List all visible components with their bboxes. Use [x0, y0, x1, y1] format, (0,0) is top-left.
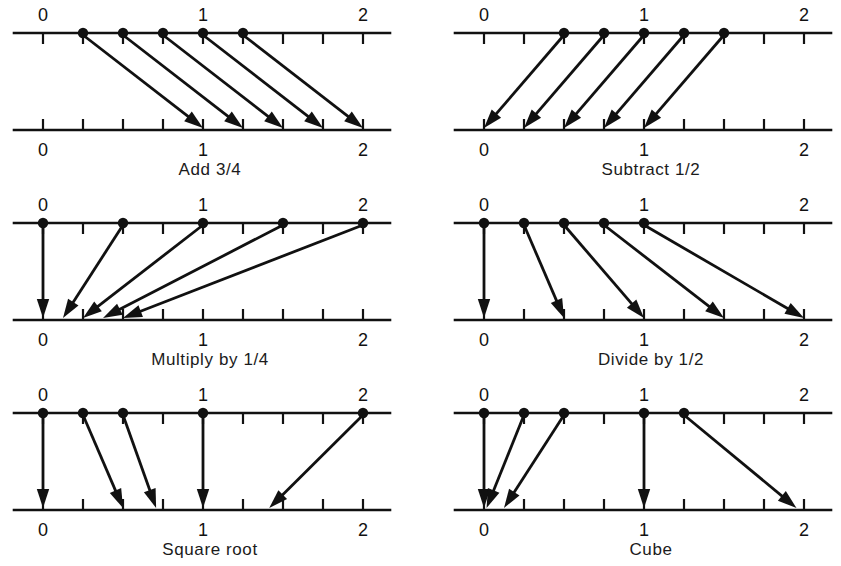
bottom-axis-label-2: 2 [799, 520, 809, 540]
mapping-arrow-4 [644, 225, 804, 318]
mapping-arrow-3 [604, 225, 724, 318]
panel-square-root: 012012Square root [0, 380, 420, 566]
mapping-arrow-1 [83, 415, 123, 508]
bottom-number-line [455, 309, 831, 320]
bottom-axis-label-0: 0 [479, 330, 489, 350]
input-point-0 [38, 218, 48, 228]
top-axis-label-2: 2 [358, 5, 368, 25]
bottom-axis-label-0: 0 [38, 330, 48, 350]
mapping-arrow-4 [644, 35, 724, 128]
top-axis-label-1: 1 [198, 195, 208, 215]
panel-cube: 012012Cube [441, 380, 841, 566]
top-axis-label-0: 0 [479, 385, 489, 405]
bottom-axis-label-0: 0 [479, 140, 489, 160]
bottom-axis-label-0: 0 [479, 520, 489, 540]
bottom-number-line [455, 119, 831, 130]
mapping-diagram-square-root: 012012 [0, 380, 420, 540]
top-axis-label-2: 2 [799, 195, 809, 215]
mapping-arrow-0 [37, 415, 49, 508]
input-point-4 [358, 218, 368, 228]
panel-caption: Square root [0, 540, 420, 560]
bottom-axis-label-2: 2 [358, 330, 368, 350]
panel-divide-by-one-half: 012012Divide by 1/2 [441, 190, 841, 378]
panel-add-three-quarters: 012012Add 3/4 [0, 0, 420, 188]
input-point-3 [278, 218, 288, 228]
mapping-arrow-1 [524, 35, 604, 128]
bottom-axis-label-1: 1 [198, 330, 208, 350]
top-axis-label-2: 2 [358, 195, 368, 215]
input-point-3 [198, 408, 208, 418]
input-point-1 [519, 218, 529, 228]
mapping-diagram-add-three-quarters: 012012 [0, 0, 420, 160]
input-point-1 [78, 408, 88, 418]
mapping-arrow-2 [123, 415, 156, 508]
mapping-diagram-subtract-one-half: 012012 [441, 0, 841, 160]
input-point-0 [38, 408, 48, 418]
mapping-diagram-divide-by-one-half: 012012 [441, 190, 841, 350]
input-point-1 [599, 28, 609, 38]
input-point-2 [559, 408, 569, 418]
mapping-arrow-0 [484, 35, 564, 128]
mapping-arrow-3 [638, 415, 650, 508]
mapping-diagram-cube: 012012 [441, 380, 841, 540]
bottom-axis-label-1: 1 [198, 520, 208, 540]
mapping-arrow-4 [123, 225, 363, 318]
input-point-4 [238, 28, 248, 38]
mapping-arrow-3 [103, 225, 283, 318]
bottom-axis-label-1: 1 [639, 520, 649, 540]
top-axis-label-0: 0 [38, 5, 48, 25]
bottom-number-line [14, 119, 390, 130]
mapping-arrow-0 [478, 225, 490, 318]
input-point-2 [198, 218, 208, 228]
input-point-0 [479, 408, 489, 418]
bottom-axis-label-2: 2 [799, 140, 809, 160]
top-axis-label-0: 0 [38, 385, 48, 405]
mapping-arrow-3 [197, 415, 209, 508]
input-point-2 [158, 28, 168, 38]
bottom-axis-label-1: 1 [639, 140, 649, 160]
mapping-arrow-1 [487, 415, 524, 508]
mapping-arrow-1 [524, 225, 564, 318]
bottom-axis-label-1: 1 [198, 140, 208, 160]
top-axis-label-1: 1 [639, 385, 649, 405]
panel-multiply-by-one-quarter: 012012Multiply by 1/4 [0, 190, 420, 378]
input-point-2 [118, 408, 128, 418]
panel-caption: Cube [441, 540, 841, 560]
input-point-3 [639, 408, 649, 418]
panel-caption: Add 3/4 [0, 160, 420, 180]
top-axis-label-2: 2 [799, 5, 809, 25]
bottom-axis-label-0: 0 [38, 520, 48, 540]
mapping-arrow-4 [684, 415, 796, 508]
input-point-3 [198, 28, 208, 38]
top-axis-label-1: 1 [198, 5, 208, 25]
mapping-diagram-multiply-by-one-quarter: 012012 [0, 190, 420, 350]
panel-caption: Subtract 1/2 [441, 160, 841, 180]
bottom-axis-label-2: 2 [799, 330, 809, 350]
input-point-0 [479, 218, 489, 228]
input-point-1 [118, 218, 128, 228]
bottom-axis-label-2: 2 [358, 520, 368, 540]
input-point-0 [78, 28, 88, 38]
mapping-arrow-3 [604, 35, 684, 128]
input-point-4 [358, 408, 368, 418]
input-point-1 [118, 28, 128, 38]
top-axis-label-1: 1 [639, 195, 649, 215]
bottom-axis-label-2: 2 [358, 140, 368, 160]
mapping-arrow-4 [269, 415, 363, 508]
mapping-arrow-2 [504, 415, 564, 508]
top-axis-label-1: 1 [198, 385, 208, 405]
panel-subtract-one-half: 012012Subtract 1/2 [441, 0, 841, 188]
mapping-arrow-2 [83, 225, 203, 318]
top-axis-label-2: 2 [799, 385, 809, 405]
panel-caption: Multiply by 1/4 [0, 350, 420, 370]
input-point-1 [519, 408, 529, 418]
figure-canvas: 012012Add 3/4012012Subtract 1/2012012Mul… [0, 0, 841, 566]
input-point-4 [639, 218, 649, 228]
input-point-0 [559, 28, 569, 38]
input-point-2 [639, 28, 649, 38]
input-point-3 [599, 218, 609, 228]
input-point-4 [679, 408, 689, 418]
bottom-axis-label-0: 0 [38, 140, 48, 160]
mapping-arrow-0 [37, 225, 49, 318]
input-point-3 [679, 28, 689, 38]
